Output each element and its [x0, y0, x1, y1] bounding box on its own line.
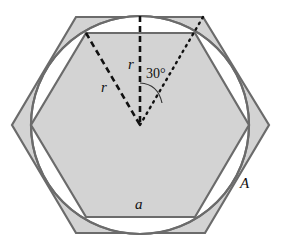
label-r-diagonal: r — [101, 80, 107, 95]
diagram-canvas — [0, 0, 286, 252]
label-r-vertical: r — [128, 57, 134, 72]
label-A-outer: A — [240, 176, 249, 191]
label-angle-30: 30° — [146, 67, 166, 81]
label-a-inner-side: a — [135, 197, 143, 212]
hexagon-circle-diagram: r r 30° a A — [0, 0, 286, 252]
